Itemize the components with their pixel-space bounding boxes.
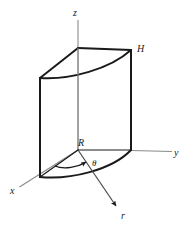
bottom-face-radius-to-x [40,150,78,177]
radius-label: R [77,137,84,148]
top-face-radius-to-x [40,48,78,78]
cylindrical-coordinates-figure: z y x r H R θ [0,0,191,231]
x-axis-label: x [9,185,15,196]
height-label: H [136,43,145,54]
wedge-solid [40,48,131,178]
angle-label: θ [92,158,97,168]
y-axis-line [131,151,172,152]
r-axis-arrow [78,150,116,206]
y-axis-label: y [173,147,179,158]
top-face-radius-to-y [78,48,131,50]
top-face-arc [40,50,131,78]
figure-canvas: z y x r H R θ [0,0,191,231]
z-axis-label: z [72,7,77,18]
r-axis-label: r [121,210,125,221]
bottom-face-arc [40,150,131,178]
